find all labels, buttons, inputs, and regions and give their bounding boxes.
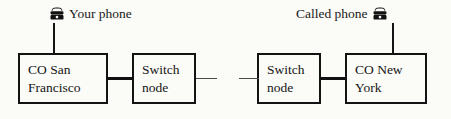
node-switch-node-1: Switch node: [132, 53, 196, 104]
endpoint-label-your-phone: Your phone: [50, 7, 132, 21]
link-co-san-francisco-to-switch-node: [106, 77, 134, 80]
node-switch-node-2: Switch node: [257, 53, 321, 104]
endpoint-label-text: Your phone: [69, 7, 132, 21]
telephone-icon: [373, 7, 387, 20]
link-switch-node-to-co-new-york: [319, 77, 347, 80]
node-co-san-francisco: CO San Francisco: [18, 53, 108, 104]
telephone-network-diagram: Your phone Called phone CO San Francisco…: [0, 0, 451, 119]
link-network-break-segment-right: [239, 78, 259, 79]
node-label: Switch node: [267, 61, 305, 97]
node-label: CO San Francisco: [28, 61, 80, 97]
node-label: CO New York: [355, 61, 403, 97]
connector-your-phone-to-co-san-francisco: [53, 23, 55, 54]
connector-called-phone-to-co-new-york: [392, 23, 394, 54]
node-co-new-york: CO New York: [345, 53, 427, 104]
endpoint-label-called-phone: Called phone: [296, 7, 387, 21]
telephone-icon: [50, 7, 64, 20]
node-label: Switch node: [142, 61, 180, 97]
endpoint-label-text: Called phone: [296, 7, 368, 21]
link-network-break-segment-left: [196, 78, 217, 79]
